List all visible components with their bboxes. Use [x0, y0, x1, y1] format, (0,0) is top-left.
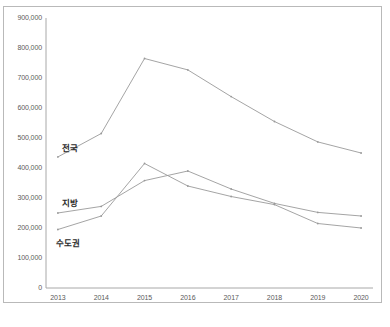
data-point [230, 196, 232, 198]
line-chart-canvas [0, 0, 390, 327]
data-point [144, 180, 146, 182]
series-line [58, 59, 361, 157]
series-label-jibang: 지방 [62, 196, 78, 208]
data-point [230, 96, 232, 98]
x-tick-label: 2018 [254, 294, 294, 301]
data-point [317, 212, 319, 214]
series-line [58, 171, 361, 216]
series-label-sudogwon: 수도권 [56, 236, 79, 248]
x-tick-label: 2019 [298, 294, 338, 301]
y-tick-label: 600,000 [2, 104, 42, 111]
x-tick-label: 2017 [211, 294, 251, 301]
y-tick-label: 500,000 [2, 134, 42, 141]
data-point [100, 215, 102, 217]
x-tick-label: 2014 [81, 294, 121, 301]
data-point [144, 58, 146, 60]
x-tick-label: 2015 [125, 294, 165, 301]
data-point [100, 133, 102, 135]
y-tick-label: 100,000 [2, 254, 42, 261]
data-point [230, 188, 232, 190]
series-지방 [57, 170, 362, 217]
data-point [187, 185, 189, 187]
data-point [187, 69, 189, 71]
y-tick-label: 400,000 [2, 164, 42, 171]
data-point [274, 204, 276, 206]
data-point [274, 121, 276, 123]
data-point [144, 163, 146, 165]
y-tick-label: 700,000 [2, 74, 42, 81]
data-point [360, 152, 362, 154]
data-point [360, 215, 362, 217]
series-line [58, 164, 361, 230]
x-tick-label: 2020 [341, 294, 381, 301]
data-point [317, 141, 319, 143]
y-tick-label: 300,000 [2, 194, 42, 201]
data-point [57, 229, 59, 231]
series-layer [57, 58, 362, 231]
y-tick-label: 200,000 [2, 224, 42, 231]
x-tick-label: 2013 [38, 294, 78, 301]
data-point [57, 212, 59, 214]
x-tick-label: 2016 [168, 294, 208, 301]
series-전국 [57, 58, 362, 158]
series-수도권 [57, 163, 362, 231]
data-point [57, 156, 59, 158]
data-point [187, 170, 189, 172]
y-tick-label: 0 [2, 284, 42, 291]
y-tick-label: 900,000 [2, 14, 42, 21]
chart-figure: 0100,000200,000300,000400,000500,000600,… [0, 0, 390, 327]
plot-axes [46, 18, 373, 288]
data-point [100, 206, 102, 208]
y-tick-label: 800,000 [2, 44, 42, 51]
series-label-jeonguk: 전국 [62, 141, 78, 153]
data-point [360, 227, 362, 229]
data-point [317, 223, 319, 225]
